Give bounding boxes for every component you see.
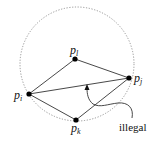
illegal-pointer-curve: [87, 88, 132, 118]
circumcircle: [20, 7, 134, 121]
label-pl: pl: [69, 43, 79, 58]
edge-pi-pk: [29, 94, 76, 120]
edge-pi-pj-illegal: [29, 78, 129, 94]
delaunay-illegal-edge-diagram: pl pj pi pk illegal: [0, 0, 158, 142]
edge-pl-pj: [75, 59, 129, 78]
vertex-pj: [126, 75, 131, 80]
vertex-pi: [26, 91, 31, 96]
label-pk: pk: [70, 121, 81, 136]
edge-pk-pj: [76, 78, 129, 120]
label-pi: pi: [13, 88, 22, 103]
label-pj: pj: [133, 71, 143, 86]
label-illegal: illegal: [119, 121, 147, 133]
edge-pi-pl: [29, 59, 75, 94]
